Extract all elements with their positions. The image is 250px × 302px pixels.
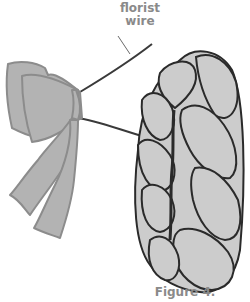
figure-illustration <box>0 0 250 302</box>
ribbon-bow <box>7 62 82 238</box>
braided-wreath <box>135 51 243 292</box>
label-pointer-line <box>118 36 130 54</box>
figure-caption: Figure 4. <box>140 286 230 299</box>
